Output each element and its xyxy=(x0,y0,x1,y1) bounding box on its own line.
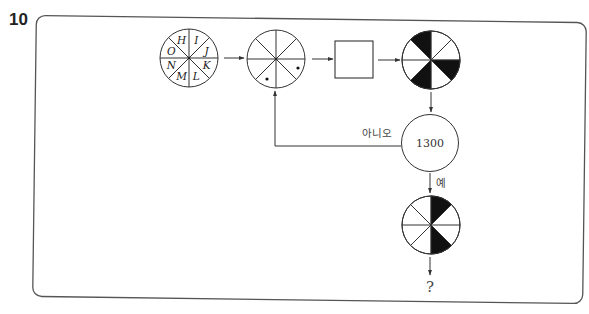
letter-n: N xyxy=(166,59,177,71)
letter-o: O xyxy=(167,45,176,57)
letter-m: M xyxy=(175,70,187,82)
decision-circle: 1300 xyxy=(402,115,459,172)
flowchart-diagram: H I J K L M N O 1300 xyxy=(0,0,589,314)
result-pattern-circle xyxy=(402,196,460,254)
letter-i: I xyxy=(193,34,199,46)
no-branch-label: 아니오 xyxy=(362,127,392,139)
dot-marker xyxy=(296,66,299,69)
dot-circle xyxy=(247,30,305,88)
process-box xyxy=(335,41,373,78)
question-frame xyxy=(33,15,587,303)
letter-k: K xyxy=(202,59,212,71)
letter-h: H xyxy=(176,34,187,46)
letter-j: J xyxy=(202,45,209,57)
start-letter-circle: H I J K L M N O xyxy=(160,29,218,87)
dot-marker xyxy=(265,77,268,80)
decision-value: 1300 xyxy=(416,137,444,150)
output-question-mark: ? xyxy=(426,278,434,296)
target-pattern-circle xyxy=(402,31,460,89)
letter-l: L xyxy=(192,70,200,82)
yes-branch-label: 예 xyxy=(436,177,446,189)
